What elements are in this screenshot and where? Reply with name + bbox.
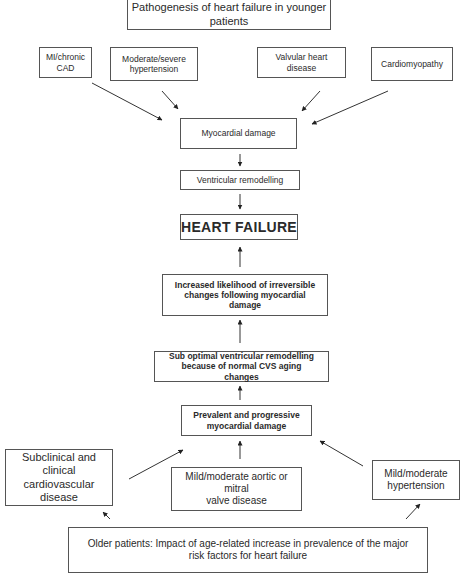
increased-likelihood-label: Increased likelihood of irreversible cha… <box>175 280 315 311</box>
prevalent-label: Prevalent and progressive myocardial dam… <box>193 410 299 430</box>
cause-label: Cardiomyopathy <box>381 59 443 69</box>
risk-label: Mild/moderate aortic or mitral valve dis… <box>185 471 287 507</box>
arrow-older-to-subclinical <box>103 512 110 519</box>
cause-label: Moderate/severe hypertension <box>122 54 186 74</box>
cause-valvular-heart-disease: Valvular heart disease <box>257 47 346 78</box>
arrow-mi-to-damage <box>92 83 162 120</box>
prevalent-progressive-damage-box: Prevalent and progressive myocardial dam… <box>181 405 312 436</box>
ventricular-remodelling-box: Ventricular remodelling <box>180 170 300 190</box>
risk-label: Subclinical and clinical cardiovascular … <box>22 451 96 504</box>
cause-moderate-severe-hypertension: Moderate/severe hypertension <box>110 47 198 81</box>
arrow-cardio-to-damage <box>312 91 388 124</box>
myocardial-damage-label: Myocardial damage <box>201 128 275 138</box>
title-box: Pathogenesis of heart failure in younger… <box>127 0 331 30</box>
risk-mild-moderate-valve-disease: Mild/moderate aortic or mitral valve dis… <box>171 467 302 511</box>
risk-mild-moderate-hypertension: Mild/moderate hypertension <box>372 460 460 500</box>
sub-optimal-label: Sub optimal ventricular remodelling beca… <box>169 351 314 382</box>
ventricular-remodelling-label: Ventricular remodelling <box>197 175 283 185</box>
cause-cardiomyopathy: Cardiomyopathy <box>371 47 453 81</box>
older-patients-label: Older patients: Impact of age-related in… <box>88 538 409 562</box>
risk-label: Mild/moderate hypertension <box>384 468 447 492</box>
heart-failure-label: HEART FAILURE <box>181 219 297 236</box>
arrow-older-to-htn <box>406 504 420 519</box>
increased-likelihood-box: Increased likelihood of irreversible cha… <box>162 274 328 316</box>
arrow-htn-to-prevalent <box>320 441 363 466</box>
risk-subclinical-cvd: Subclinical and clinical cardiovascular … <box>5 449 113 506</box>
sub-optimal-remodelling-box: Sub optimal ventricular remodelling beca… <box>154 351 329 382</box>
diagram-title: Pathogenesis of heart failure in younger… <box>132 1 326 27</box>
cause-label: Valvular heart disease <box>276 52 328 72</box>
arrow-htn-to-damage <box>162 91 178 109</box>
cause-mi-chronic-cad: MI/chronic CAD <box>39 47 92 78</box>
cause-label: MI/chronic CAD <box>46 52 85 72</box>
arrow-valv-to-damage <box>302 91 320 111</box>
myocardial-damage-box: Myocardial damage <box>180 118 297 149</box>
older-patients-box: Older patients: Impact of age-related in… <box>68 527 428 573</box>
heart-failure-box: HEART FAILURE <box>180 214 298 240</box>
